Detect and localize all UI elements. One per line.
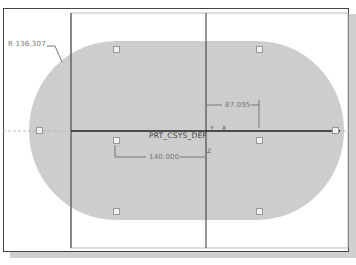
- constraint-icon-mid-right[interactable]: [256, 137, 263, 144]
- axis-y-label: Y: [210, 124, 214, 131]
- width-dimension[interactable]: 140.000: [149, 153, 179, 161]
- constraint-icon-right-end[interactable]: [332, 127, 339, 134]
- radius-leader: [47, 46, 62, 62]
- constraint-icon-bottom-right[interactable]: [256, 208, 263, 215]
- radius-dimension[interactable]: R 136.307: [8, 40, 46, 48]
- horizontal-dimension[interactable]: 87.095: [225, 101, 251, 109]
- csys-label: PRT_CSYS_DEF: [149, 131, 207, 140]
- constraint-icon-mid-left[interactable]: [113, 137, 120, 144]
- constraint-icon-bottom-left[interactable]: [113, 208, 120, 215]
- constraint-icon-left-end[interactable]: [36, 127, 43, 134]
- constraint-icon-top-right[interactable]: [256, 46, 263, 53]
- constraint-icon-top-left[interactable]: [113, 46, 120, 53]
- axis-z-label: Z: [207, 147, 211, 154]
- axis-x-label: X: [222, 124, 226, 131]
